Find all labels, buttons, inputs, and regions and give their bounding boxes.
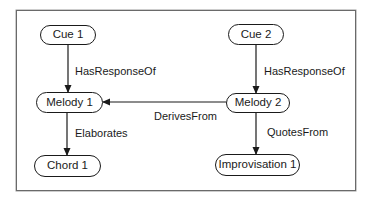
node-label: Cue 1 [53,29,84,41]
edge-label-melody1-chord1: Elaborates [75,128,128,139]
node-label: Chord 1 [47,160,88,172]
node-label: Melody 2 [235,97,282,109]
edge-label-cue1-melody1: HasResponseOf [75,66,156,77]
edge-label-cue2-melody2: HasResponseOf [264,66,345,77]
node-melody-1: Melody 1 [36,92,103,113]
node-label: Improvisation 1 [219,159,297,171]
edge-label-melody2-improvisation1: QuotesFrom [267,127,328,138]
node-label: Cue 2 [241,29,272,41]
node-improvisation-1: Improvisation 1 [215,154,300,176]
node-melody-2: Melody 2 [226,93,290,113]
node-chord-1: Chord 1 [34,155,101,177]
node-label: Melody 1 [46,97,93,109]
node-cue-2: Cue 2 [228,24,284,45]
edge-label-melody2-melody1: DerivesFrom [154,111,217,122]
node-cue-1: Cue 1 [40,25,96,45]
